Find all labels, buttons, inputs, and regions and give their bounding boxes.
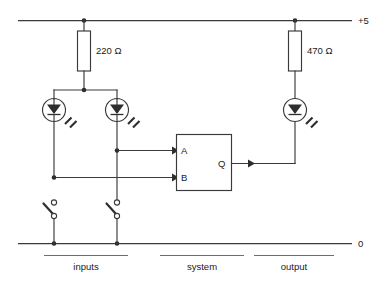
gate-input-b-label: B [181, 172, 187, 183]
switch-b-lever[interactable] [107, 204, 117, 215]
junction-dot-signal-a [115, 148, 120, 153]
switch-b-lower-contact[interactable] [114, 213, 119, 218]
resistor-220-body [78, 31, 91, 71]
schematic-canvas: +5 0 220 Ω [0, 0, 388, 284]
input-b-led-ray-1 [128, 118, 135, 125]
input-a-led [43, 99, 77, 178]
input-a-led-ray-1 [65, 118, 72, 125]
supply-rail-label: +5 [358, 15, 369, 26]
supply-rail [18, 18, 352, 23]
input-a-led-ray-2 [70, 121, 77, 128]
section-label-output: output [281, 261, 308, 272]
gate-output-q-label: Q [218, 158, 225, 169]
junction-dot-led-bus [82, 88, 87, 93]
input-b-led-triangle [110, 105, 124, 115]
resistor-470-body [289, 31, 302, 71]
switch-b[interactable] [107, 200, 120, 244]
circuit-diagram: +5 0 220 Ω [0, 0, 388, 284]
input-led-bus [54, 88, 117, 99]
section-label-inputs: inputs [73, 261, 99, 272]
ground-rail [18, 241, 352, 246]
resistor-220-branch [78, 21, 91, 91]
switch-a[interactable] [44, 200, 57, 244]
ground-rail-label: 0 [358, 238, 363, 249]
switch-a-upper-contact[interactable] [51, 200, 56, 205]
switch-a-lever[interactable] [44, 204, 54, 215]
signal-wire-b [52, 174, 179, 182]
resistor-470-label: 470 Ω [307, 45, 333, 56]
resistor-220-label: 220 Ω [96, 45, 122, 56]
junction-dot-signal-b [52, 175, 57, 180]
output-signal-wire [232, 122, 296, 167]
resistor-470-branch [289, 21, 302, 99]
output-led-ray-2 [311, 121, 318, 128]
signal-wire-a [115, 147, 179, 155]
output-wire-arrowhead [248, 160, 255, 168]
section-label-system: system [187, 261, 217, 272]
output-led [284, 99, 318, 128]
input-a-led-triangle [47, 105, 61, 115]
gate-input-a-label: A [181, 145, 188, 156]
output-led-ray-1 [306, 118, 313, 125]
input-b-led-ray-2 [133, 121, 140, 128]
switch-b-upper-contact[interactable] [114, 200, 119, 205]
switch-a-lower-contact[interactable] [51, 213, 56, 218]
output-led-triangle [288, 105, 302, 115]
